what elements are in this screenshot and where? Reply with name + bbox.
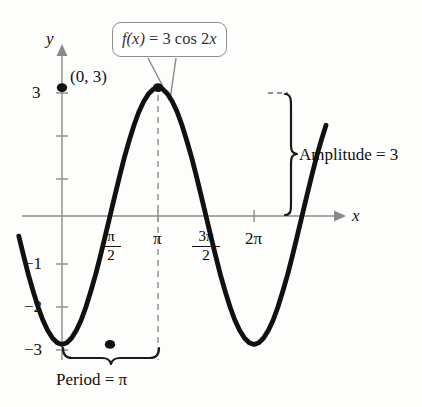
x-tick-label-pi-over-2: π 2 xyxy=(100,229,122,264)
cos-path xyxy=(19,88,326,345)
x-axis-label: x xyxy=(352,207,360,224)
amplitude-annotation: Amplitude = 3 xyxy=(299,146,398,163)
curve-layer xyxy=(0,0,422,407)
cosine-graph-figure: y x 3 −1 −2 −3 (0, 3) π 2 π 3π 2 2π Ampl… xyxy=(0,0,422,407)
x-tick-label-3pi-over-2: 3π 2 xyxy=(191,229,221,264)
y-tick-label-neg1: −1 xyxy=(24,255,42,272)
callout-equals: = 3 cos 2 xyxy=(145,29,209,48)
fraction-denominator: 2 xyxy=(100,247,122,264)
point-label-0-3: (0, 3) xyxy=(70,68,107,85)
y-tick-label-neg2: −2 xyxy=(24,298,42,315)
fraction-numerator: π xyxy=(100,229,122,246)
period-annotation: Period = π xyxy=(56,371,127,388)
fraction-denominator: 2 xyxy=(191,247,221,264)
y-tick-label-neg3: −3 xyxy=(24,341,42,358)
fraction-numerator: 3π xyxy=(191,229,221,246)
x-tick-label-pi: π xyxy=(153,230,162,247)
callout-function-arg: (x) xyxy=(127,29,145,48)
function-callout: f(x) = 3 cos 2x xyxy=(112,22,227,57)
y-axis-label: y xyxy=(46,30,54,47)
callout-variable: x xyxy=(209,29,216,48)
x-tick-label-2pi: 2π xyxy=(245,230,262,247)
y-tick-label-3: 3 xyxy=(32,84,41,101)
